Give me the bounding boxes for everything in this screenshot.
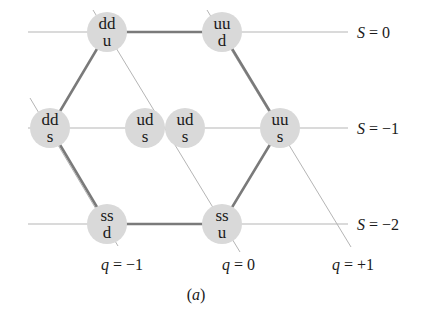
- svg-text:u: u: [218, 223, 227, 242]
- svg-text:u: u: [103, 31, 112, 50]
- particle-node-sigma-minus: dd s: [30, 108, 70, 148]
- figure-caption: (a): [187, 286, 206, 304]
- charge-label-0: q = 0: [222, 256, 255, 274]
- particle-node-xi-zero: ss u: [202, 204, 242, 244]
- svg-text:s: s: [47, 127, 54, 146]
- particle-node-sigma-zero: ud s: [125, 108, 165, 148]
- particle-node-neutron: dd u: [87, 12, 127, 52]
- particle-node-lambda: ud s: [165, 108, 205, 148]
- particle-node-xi-minus: ss d: [87, 204, 127, 244]
- baryon-octet-diagram: dd u uu d dd s ud s ud s uu s ss d ss u …: [0, 0, 429, 322]
- strangeness-label-minus2: S = −2: [357, 216, 399, 233]
- strangeness-label-0: S = 0: [357, 24, 390, 41]
- svg-text:s: s: [277, 127, 284, 146]
- charge-label-plus1: q = +1: [332, 256, 374, 274]
- particle-node-sigma-plus: uu s: [260, 108, 300, 148]
- svg-text:s: s: [142, 127, 149, 146]
- svg-text:s: s: [182, 127, 189, 146]
- charge-label-minus1: q = −1: [101, 256, 143, 274]
- svg-text:d: d: [218, 31, 227, 50]
- strangeness-label-minus1: S = −1: [357, 120, 399, 137]
- particle-node-proton: uu d: [202, 12, 242, 52]
- svg-text:d: d: [103, 223, 112, 242]
